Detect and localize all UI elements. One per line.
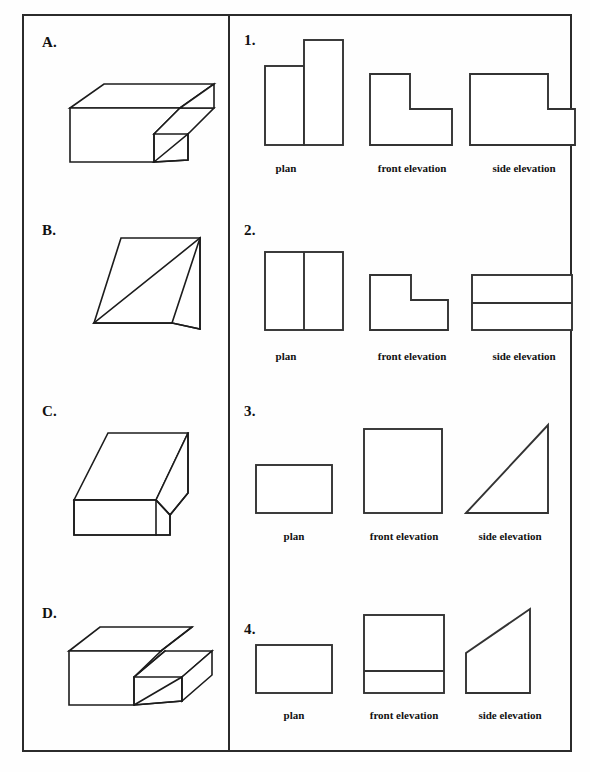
projection-cell-4: 4. plan front elevation side elevation	[230, 583, 572, 751]
plan-label-2: plan	[254, 350, 318, 362]
solid-label-c: C.	[42, 403, 57, 420]
projection-label-1: 1.	[244, 32, 256, 49]
front-elevation-view-2	[370, 275, 448, 330]
plan-view-1	[265, 40, 343, 145]
front-elevation-label-3: front elevation	[354, 530, 454, 542]
projection-cell-1: 1. plan front elevation side elevation	[230, 14, 572, 204]
solid-cell-d: D.	[24, 583, 228, 751]
side-elevation-view-3	[466, 425, 548, 513]
side-elevation-label-3: side elevation	[458, 530, 562, 542]
plan-label-4: plan	[254, 709, 334, 721]
projection-cell-2: 2. plan front elevation side elevation	[230, 205, 572, 385]
solid-cell-c: C.	[24, 385, 228, 570]
side-elevation-view-2	[472, 275, 572, 330]
projection-cell-3: 3. plan front elevation side elevation	[230, 385, 572, 570]
projection-label-2: 2.	[244, 222, 256, 239]
side-elevation-view-1	[470, 74, 575, 145]
plan-view-3	[256, 465, 332, 513]
front-elevation-label-1: front elevation	[354, 162, 470, 174]
front-elevation-view-1	[370, 74, 452, 145]
projection-figure-1	[230, 14, 572, 149]
projection-label-4: 4.	[244, 621, 256, 638]
solid-cell-a: A.	[24, 14, 228, 204]
solid-label-a: A.	[42, 34, 57, 51]
solid-label-d: D.	[42, 605, 57, 622]
plan-view-4	[256, 645, 332, 693]
solid-label-b: B.	[42, 222, 56, 239]
front-elevation-view-3	[364, 429, 442, 513]
plan-label-3: plan	[254, 530, 334, 542]
side-elevation-label-2: side elevation	[468, 350, 580, 362]
projection-figure-3	[230, 385, 572, 520]
front-elevation-label-2: front elevation	[354, 350, 470, 362]
front-elevation-label-4: front elevation	[354, 709, 454, 721]
side-elevation-view-4	[466, 609, 530, 693]
side-elevation-label-1: side elevation	[468, 162, 580, 174]
projection-label-3: 3.	[244, 403, 256, 420]
worksheet-page: A. 1.	[0, 0, 590, 772]
projection-figure-4	[230, 583, 572, 708]
side-elevation-label-4: side elevation	[458, 709, 562, 721]
plan-label-1: plan	[254, 162, 318, 174]
solid-cell-b: B.	[24, 205, 228, 385]
front-elevation-view-4	[364, 615, 444, 693]
plan-view-2	[265, 252, 343, 330]
projection-figure-2	[230, 205, 572, 335]
